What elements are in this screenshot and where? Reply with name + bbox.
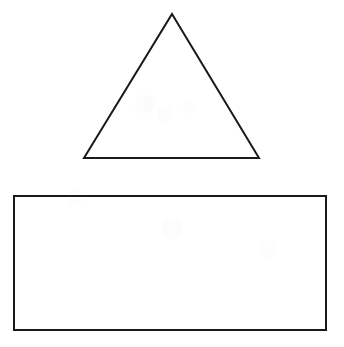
canvas-background [0,0,344,347]
drawing-canvas [0,0,344,347]
shapes-figure [0,0,344,347]
